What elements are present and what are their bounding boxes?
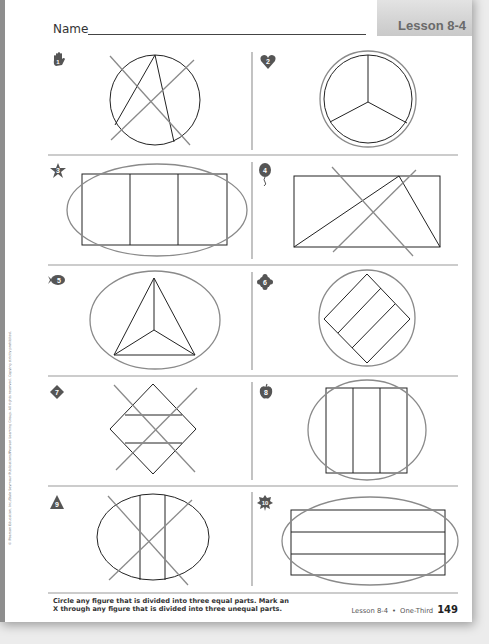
problem-5[interactable]: 5 xyxy=(48,271,220,369)
problem-number: 7 xyxy=(55,389,59,396)
figure xyxy=(324,274,410,363)
problem-number: 10 xyxy=(262,500,269,506)
figure xyxy=(326,388,407,473)
problem-10[interactable]: 10 xyxy=(257,495,458,585)
circle-mark xyxy=(90,271,220,369)
problem-number: 2 xyxy=(266,58,270,65)
figure xyxy=(82,174,227,245)
figure xyxy=(291,510,445,575)
figure xyxy=(294,176,440,247)
leaf-icon: 10 xyxy=(257,495,273,511)
figure xyxy=(110,384,196,474)
circle-mark xyxy=(67,164,247,256)
problem-number: 4 xyxy=(263,167,267,174)
problem-6[interactable]: 6 xyxy=(257,270,415,366)
diamond-icon: 7 xyxy=(50,385,64,399)
hand-icon: 1 xyxy=(54,52,65,66)
fish-icon: 5 xyxy=(48,275,65,285)
heart-icon: 2 xyxy=(260,55,275,69)
problem-number: 6 xyxy=(263,279,267,286)
problem-4[interactable]: 4 xyxy=(259,163,440,256)
problem-2[interactable]: 2 xyxy=(260,51,416,147)
triangle-icon: 9 xyxy=(50,495,64,509)
balloon-icon: 4 xyxy=(259,163,271,186)
figure xyxy=(114,278,195,355)
figure xyxy=(324,55,412,143)
problem-number: 8 xyxy=(264,389,268,396)
problem-7[interactable]: 7 xyxy=(50,384,197,474)
apple-icon: 8 xyxy=(260,384,272,399)
circle-mark xyxy=(319,270,415,366)
problem-number: 3 xyxy=(56,167,60,174)
problem-grid: 1 2 3 xyxy=(0,0,489,644)
problem-3[interactable]: 3 xyxy=(50,163,247,256)
x-mark xyxy=(114,385,197,472)
star-icon: 3 xyxy=(50,163,66,178)
problem-1[interactable]: 1 xyxy=(54,52,200,145)
figure xyxy=(110,55,200,145)
flower-icon: 6 xyxy=(257,274,273,290)
problem-number: 5 xyxy=(57,277,61,284)
problem-number: 9 xyxy=(55,501,59,508)
problem-9[interactable]: 9 xyxy=(50,494,209,585)
problem-8[interactable]: 8 xyxy=(260,380,426,480)
x-mark xyxy=(332,167,416,256)
